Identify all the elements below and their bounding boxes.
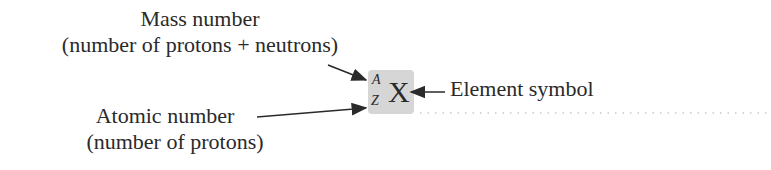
mass-number-arrow — [328, 65, 366, 80]
atomic-number-arrow — [257, 108, 366, 117]
arrows-layer — [0, 0, 771, 170]
